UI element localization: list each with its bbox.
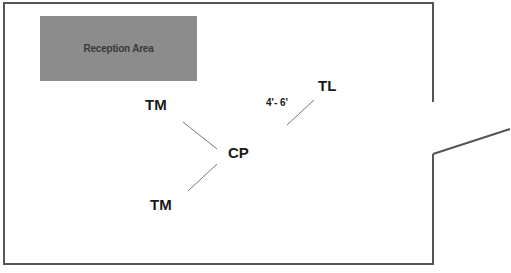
door-swing — [433, 129, 510, 154]
distance-label: 4'- 6' — [266, 97, 288, 108]
reception-area: Reception Area — [40, 16, 197, 81]
position-tm-top: TM — [145, 96, 167, 113]
connector-tm-top-cp — [183, 122, 217, 149]
connector-cp-tm-bottom — [188, 164, 217, 191]
position-tl: TL — [318, 77, 336, 94]
position-cp: CP — [228, 144, 249, 161]
connector-cp-tl — [287, 100, 314, 125]
reception-area-label: Reception Area — [83, 43, 153, 54]
position-tm-bottom: TM — [150, 196, 172, 213]
